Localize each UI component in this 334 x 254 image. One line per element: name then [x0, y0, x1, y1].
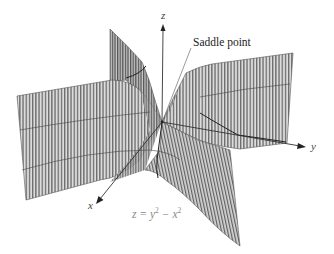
formula-exp1: 2	[155, 206, 159, 215]
x-axis-arrowhead	[96, 196, 104, 204]
formula-equals: =	[139, 208, 147, 220]
formula-minus: −	[162, 208, 170, 220]
x-axis-label: x	[88, 199, 93, 211]
y-axis-arrowhead	[297, 143, 306, 149]
z-axis-arrowhead	[161, 24, 166, 31]
formula-exp2: 2	[177, 206, 181, 215]
z-axis	[162, 30, 163, 122]
surface-equation: z = y2 − x2	[132, 206, 181, 220]
formula-lhs: z	[132, 208, 136, 220]
saddle-point-label: Saddle point	[193, 36, 251, 48]
surface-left-wing	[17, 80, 162, 200]
z-axis-label: z	[161, 9, 165, 21]
saddle-point-marker	[161, 121, 164, 124]
y-axis-label: y	[311, 140, 316, 152]
